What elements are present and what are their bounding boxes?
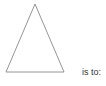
- analogy-label: is to:: [82, 67, 101, 78]
- triangle-icon: [0, 0, 70, 86]
